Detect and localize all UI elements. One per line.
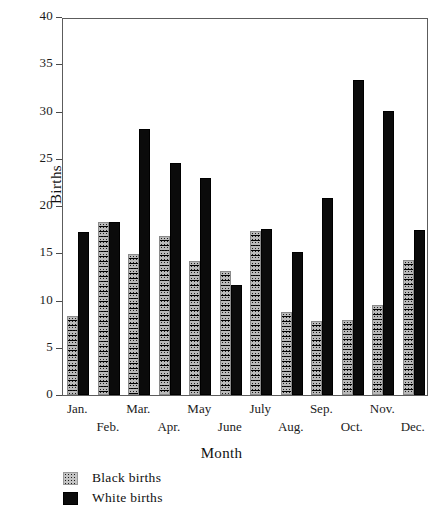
y-tick-label: 5 bbox=[46, 340, 53, 353]
y-tick-label: 10 bbox=[39, 293, 53, 306]
bar-chart-figure: 0510152025303540 Births Jan.Feb.Mar.Apr.… bbox=[0, 0, 443, 512]
bar bbox=[78, 232, 89, 395]
bar bbox=[342, 320, 353, 395]
bar-group bbox=[67, 19, 89, 395]
bar-group bbox=[128, 19, 150, 395]
x-axis-tick-label: Feb. bbox=[78, 420, 138, 434]
legend-item-black-births: Black births bbox=[63, 468, 323, 488]
bar bbox=[170, 163, 181, 395]
bar bbox=[353, 80, 364, 395]
x-axis-tick-label: Nov. bbox=[352, 402, 412, 416]
bar bbox=[372, 305, 383, 395]
bar bbox=[231, 285, 242, 395]
legend-label-black-births: Black births bbox=[92, 470, 161, 486]
x-axis-tick-label: Mar. bbox=[108, 402, 168, 416]
x-axis-tick-label: Aug. bbox=[261, 420, 321, 434]
y-tick-label: 40 bbox=[39, 9, 53, 22]
bar bbox=[128, 254, 139, 395]
bar bbox=[189, 261, 200, 395]
bar bbox=[311, 321, 322, 395]
legend-label-white-births: White births bbox=[92, 490, 163, 506]
x-axis-tick-labels: Jan.Feb.Mar.Apr.MayJuneJulyAug.Sep.Oct.N… bbox=[0, 398, 443, 444]
bar bbox=[261, 229, 272, 395]
legend-swatch-black-births bbox=[63, 472, 78, 485]
legend-swatch-white-births bbox=[63, 492, 78, 505]
bar bbox=[403, 260, 414, 395]
legend-item-white-births: White births bbox=[63, 488, 323, 508]
bar bbox=[281, 312, 292, 395]
chart-legend: Black births White births bbox=[63, 468, 323, 508]
bar-group bbox=[372, 19, 394, 395]
bar bbox=[250, 231, 261, 395]
x-axis-tick-label: Sep. bbox=[291, 402, 351, 416]
bar-group bbox=[189, 19, 211, 395]
bar-group bbox=[342, 19, 364, 395]
bar-group bbox=[311, 19, 333, 395]
bar-group bbox=[403, 19, 425, 395]
x-axis-tick-label: July bbox=[230, 402, 290, 416]
bar bbox=[414, 230, 425, 395]
y-tick-label: 15 bbox=[39, 245, 53, 258]
y-tick-label: 30 bbox=[39, 104, 53, 117]
x-axis-tick-label: Jan. bbox=[47, 402, 107, 416]
bar bbox=[220, 271, 231, 395]
bar-group bbox=[220, 19, 242, 395]
bar bbox=[109, 222, 120, 395]
bar-group bbox=[98, 19, 120, 395]
bar-group bbox=[159, 19, 181, 395]
x-axis-title: Month bbox=[0, 445, 443, 462]
bar bbox=[383, 111, 394, 395]
bar-group bbox=[250, 19, 272, 395]
bar bbox=[139, 129, 150, 395]
x-axis-tick-label: May bbox=[169, 402, 229, 416]
bar-group bbox=[281, 19, 303, 395]
bar bbox=[200, 178, 211, 395]
plot-area bbox=[62, 18, 428, 396]
x-axis-tick-label: Dec. bbox=[383, 420, 443, 434]
x-axis-tick-label: Oct. bbox=[322, 420, 382, 434]
bar bbox=[98, 222, 109, 395]
bar bbox=[322, 198, 333, 395]
x-axis-tick-label: Apr. bbox=[139, 420, 199, 434]
x-axis-tick-label: June bbox=[200, 420, 260, 434]
bar bbox=[292, 252, 303, 395]
y-tick-label: 35 bbox=[39, 56, 53, 69]
bar bbox=[67, 316, 78, 395]
bar bbox=[159, 236, 170, 395]
